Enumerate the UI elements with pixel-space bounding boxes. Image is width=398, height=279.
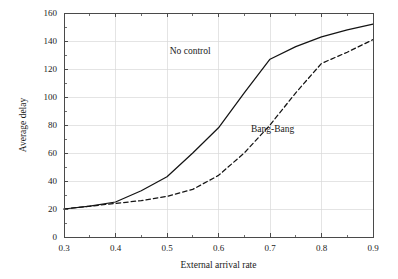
y-tick-label: 0 — [53, 232, 58, 242]
chart-figure: 0204060801001201401600.30.40.50.60.70.80… — [0, 0, 398, 279]
y-tick-label: 120 — [44, 64, 58, 74]
series-label-bang-bang: Bang-Bang — [251, 124, 295, 134]
y-tick-label: 80 — [48, 120, 58, 130]
axis-tick-labels: 0204060801001201401600.30.40.50.60.70.80… — [44, 8, 380, 253]
x-tick-label: 0.3 — [58, 243, 70, 253]
x-tick-label: 0.7 — [264, 243, 276, 253]
x-tick-label: 0.4 — [110, 243, 122, 253]
y-tick-label: 160 — [44, 8, 58, 18]
y-axis-title: Average delay — [18, 98, 28, 153]
x-tick-label: 0.9 — [367, 243, 379, 253]
y-tick-label: 100 — [44, 92, 58, 102]
x-axis-title: External arrival rate — [181, 260, 257, 270]
x-tick-label: 0.5 — [161, 243, 173, 253]
y-tick-label: 60 — [48, 148, 58, 158]
y-tick-label: 20 — [48, 204, 58, 214]
line-chart: 0204060801001201401600.30.40.50.60.70.80… — [0, 0, 398, 279]
series-label-no-control: No control — [170, 46, 211, 56]
y-tick-label: 140 — [44, 36, 58, 46]
x-tick-label: 0.8 — [316, 243, 328, 253]
x-tick-label: 0.6 — [213, 243, 225, 253]
series-annotations: No controlBang-Bang — [170, 46, 295, 134]
y-tick-label: 40 — [48, 176, 58, 186]
